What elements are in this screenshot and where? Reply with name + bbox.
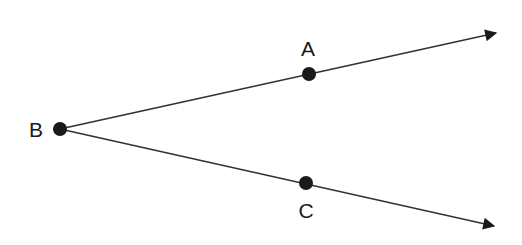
point-c	[299, 176, 313, 190]
label-a: A	[301, 37, 315, 60]
ray-ba	[60, 33, 496, 129]
label-c: C	[298, 199, 313, 222]
label-b: B	[29, 118, 43, 141]
point-a	[302, 67, 316, 81]
angle-diagram: B A C	[0, 0, 522, 245]
point-b	[53, 122, 67, 136]
ray-bc	[60, 129, 494, 226]
